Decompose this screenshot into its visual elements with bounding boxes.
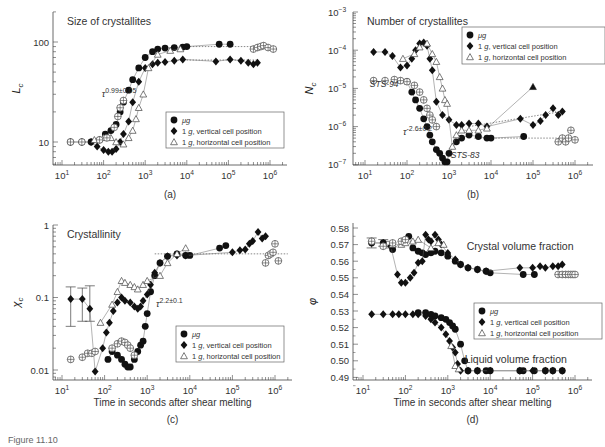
y-tick-label: 10−5 [328,82,346,94]
x-tick-label: 106 [568,169,583,181]
y-tick-label: 10−3 [328,6,346,18]
chart-title: Size of crystallites [67,15,151,27]
x-tick-label: 105 [225,384,240,396]
figure-canvas: 10110210310410510610100Lc(a)Size of crys… [0,0,605,447]
y-tick-label: 1 [44,220,49,231]
legend-item: 1 g, horizontal cell position [478,53,566,62]
error-bar [66,287,76,326]
x-tick-label: 101 [358,169,373,181]
x-tick-label: 102 [97,384,112,396]
x-tick-label: 104 [183,384,198,396]
annotation: STS-94 [370,79,399,89]
y-tick-label: 0.55 [331,272,350,283]
legend-item: 1 g, horizontal cell position [490,329,578,338]
panel-label: (d) [466,414,478,425]
x-tick-label: 105 [526,169,541,181]
chart-panel-c: 1011021031041051060.010.11χcTime in seco… [10,220,292,426]
data-series [370,76,578,145]
legend-item: 1 g, vertical cell position [478,42,558,51]
y-tick-label: 0.50 [331,355,350,366]
axes: 10110210310410510610100Lc(a)Size of crys… [10,12,287,200]
x-tick-label: 105 [221,169,236,181]
x-tick-label: 104 [180,169,195,181]
x-tick-label: 104 [484,169,499,181]
x-tick-label: 103 [441,384,456,396]
annotation: Crystal volume fraction [467,240,574,252]
y-tick-label: 0.53 [331,306,350,317]
y-axis-label: Lc [10,83,25,93]
y-tick-label: 100 [33,37,49,48]
figure-caption: Figure 11.10 [8,435,58,445]
y-tick-label: 0.56 [331,256,350,267]
x-tick-label: 105 [525,384,540,396]
x-tick-label: 106 [263,169,278,181]
annotation: Liquid volume fraction [465,353,567,365]
x-tick-label: 101 [356,384,371,396]
chart-title: Crystallinity [67,228,121,240]
x-tick-label: 102 [96,169,111,181]
chart-panel-b: 10110210310410510610−710−610−510−410−3Nc… [303,6,605,201]
legend-item: 1 g, vertical cell position [490,318,570,327]
panel-label: (a) [164,189,176,200]
panel-label: (b) [467,189,479,200]
y-tick-label: 0.52 [331,322,350,333]
error-bar [77,288,87,321]
y-tick-label: 0.1 [36,292,49,303]
y-tick-label: 0.51 [331,339,350,350]
reference-line [469,111,562,126]
chart-panel-d: 1011021031041051060.490.500.510.520.530.… [306,223,602,426]
x-tick-label: 103 [442,169,457,181]
x-tick-label: 101 [55,384,70,396]
legend-item: μg [477,31,487,40]
x-axis-label: Time in seconds after shear melting [93,397,251,408]
legend: μg1 g, vertical cell position1 g, horizo… [166,112,284,148]
y-tick-label: 10−6 [328,120,346,132]
y-axis-label: φ [306,298,318,305]
y-tick-label: 10 [38,137,49,148]
x-tick-label: 101 [55,169,70,181]
data-series [97,245,189,326]
legend-item: 1 g, horizontal cell position [182,138,270,147]
x-tick-label: 103 [140,384,155,396]
legend-item: μg [489,307,499,316]
chart-panel-a: 10110210310410510610100Lc(a)Size of crys… [10,12,287,200]
legend-item: 1 g, vertical cell position [182,127,262,136]
legend-item: μg [191,330,201,339]
y-tick-label: 10−4 [328,44,346,56]
y-tick-label: 10−7 [328,158,346,170]
chart-title: Number of crystallites [367,15,468,27]
panel-label: (c) [167,414,179,425]
legend-item: 1 g, horizontal cell position [192,352,280,361]
legend-item: μg [181,116,191,125]
legend-item: 1 g, vertical cell position [192,341,272,350]
scaling-annotation: τ0.99±0.05 [102,87,137,99]
y-tick-label: 0.49 [331,372,350,383]
y-tick-label: 0.01 [31,365,50,376]
x-tick-label: 104 [483,384,498,396]
scaling-annotation: τ2.2±0.1 [156,297,183,309]
x-tick-label: 102 [398,384,413,396]
x-axis-label: Time in seconds after shear melting [393,397,551,408]
y-axis-label: χc [10,297,25,308]
annotation: STS-83 [451,150,480,160]
y-axis-label: Nc [303,83,318,95]
legend: μg1 g, vertical cell position1 g, horizo… [462,27,605,64]
legend: μg1 g, vertical cell position1 g, horizo… [176,326,284,362]
axes: 1011021031041051060.010.11χcTime in seco… [10,220,292,426]
error-bar [85,286,95,321]
legend: μg1 g, vertical cell position1 g, horizo… [474,303,602,339]
x-tick-label: 106 [268,384,283,396]
x-tick-label: 106 [568,384,583,396]
y-tick-label: 0.57 [331,239,350,250]
x-tick-label: 102 [400,169,415,181]
data-series [368,231,565,287]
y-tick-label: 0.54 [331,289,350,300]
y-tick-label: 0.58 [331,223,350,234]
x-tick-label: 103 [138,169,153,181]
